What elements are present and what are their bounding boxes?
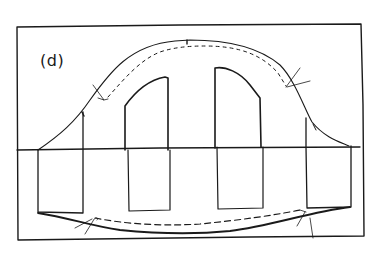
horizontal-axis: [17, 147, 360, 150]
pulse-2-upper: [125, 77, 168, 150]
pulse-1-top-tick: [82, 112, 84, 116]
pulse-2-lower: [128, 150, 170, 211]
pulse-1: [38, 112, 83, 213]
panel-label: (d): [40, 51, 64, 70]
waveform-diagram: [0, 0, 378, 269]
pulse-3-upper: [215, 68, 261, 148]
upper-envelope-solid: [38, 40, 349, 150]
pulse-3-lower: [217, 147, 263, 209]
pulse-4: [306, 118, 351, 208]
lower-envelope-dashed: [95, 210, 300, 225]
